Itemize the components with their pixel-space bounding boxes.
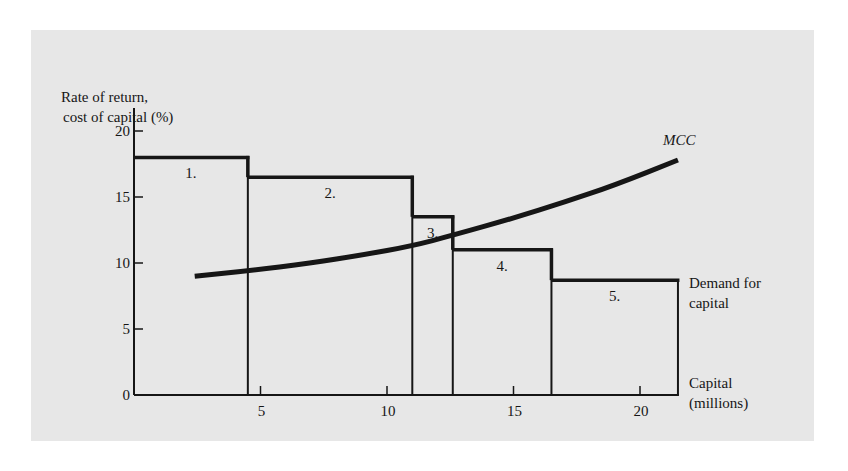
y-tick-label: 5: [123, 321, 131, 337]
x-tick-label: 5: [258, 403, 266, 419]
project-label: 2.: [324, 185, 335, 201]
project-label: 4.: [496, 258, 507, 274]
y-tick-label: 20: [115, 123, 130, 139]
project-label: 5.: [609, 288, 620, 304]
project-label: 1.: [185, 165, 196, 181]
y-tick-label: 10: [115, 255, 130, 271]
x-tick-label: 15: [507, 403, 522, 419]
x-tick-label: 20: [634, 403, 649, 419]
chart-svg: 0510152051015201.2.3.4.5.: [0, 0, 848, 471]
y-tick-label: 15: [115, 189, 130, 205]
x-tick-label: 10: [381, 403, 396, 419]
y-tick-label: 0: [123, 387, 131, 403]
